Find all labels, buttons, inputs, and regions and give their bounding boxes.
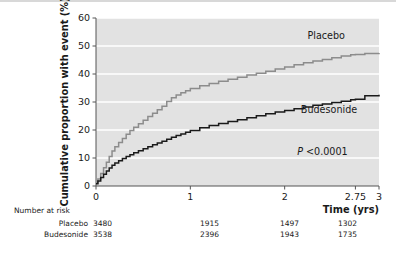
risk-value: 1497	[280, 219, 299, 228]
x-axis-tick-label: 3	[376, 191, 382, 202]
y-axis-tick-label: 20	[78, 124, 90, 135]
y-axis-tick-label: 10	[78, 152, 90, 163]
number-at-risk-title: Number at risk	[14, 206, 70, 215]
annotation-p: P <0.0001	[297, 146, 347, 157]
y-axis-title: Cumulative proportion with event (%)	[59, 0, 70, 207]
risk-row-label-placebo: Placebo	[0, 219, 88, 228]
annotation-budesonide: Budesonide	[301, 104, 357, 115]
x-axis-tick-label: 0	[93, 191, 99, 202]
risk-value: 1915	[200, 219, 219, 228]
p-value: <0.0001	[303, 146, 348, 157]
y-axis-tick-label: 50	[78, 40, 90, 51]
annotation-placebo: Placebo	[307, 30, 345, 41]
risk-value: 2396	[200, 230, 219, 239]
x-axis-tick-label: 1	[187, 191, 193, 202]
risk-value: 3538	[93, 230, 112, 239]
y-axis-tick-label: 30	[78, 96, 90, 107]
risk-value: 1943	[280, 230, 299, 239]
risk-value: 1735	[338, 230, 357, 239]
risk-value: 1302	[338, 219, 357, 228]
table-row: Budesonide 3538 2396 1943 1735	[0, 230, 396, 242]
y-axis-tick-label: 40	[78, 68, 90, 79]
risk-row-label-budesonide: Budesonide	[0, 230, 88, 239]
x-axis-tick-label: 2	[282, 191, 288, 202]
y-axis-tick-label: 60	[78, 12, 90, 23]
y-axis-tick-label: 0	[84, 180, 90, 191]
x-axis-tick-label: 2.75	[345, 191, 366, 202]
risk-value: 3480	[93, 219, 112, 228]
x-axis-title: Time (yrs)	[323, 204, 379, 215]
survival-curve-figure: 01020304050600122.753Cumulative proporti…	[0, 0, 396, 263]
